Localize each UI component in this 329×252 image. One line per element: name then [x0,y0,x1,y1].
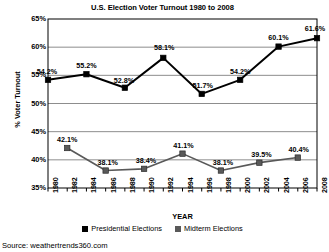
x-tick-label: 2008 [320,177,329,193]
data-point-marker [295,155,300,160]
x-axis-title: YEAR [48,212,317,221]
legend-swatch-presidential [82,226,88,232]
legend-swatch-midterm [175,226,181,232]
data-point-label: 38.1% [213,158,233,167]
data-point-label: 38.4% [136,156,156,165]
data-point-marker [84,72,89,77]
legend-item-presidential: Presidential Elections [82,224,162,233]
x-tick-label: 2002 [262,177,271,193]
data-point-label: 38.1% [97,158,117,167]
x-tick-label: 2006 [301,177,310,193]
data-point-label: 41.1% [173,141,193,150]
data-point-marker [276,44,281,49]
data-point-marker [103,168,108,173]
x-tick-label: 1992 [166,177,175,193]
data-point-label: 39.5% [251,150,271,159]
x-tick-label: 1986 [109,177,118,193]
data-point-marker [199,91,204,96]
data-point-marker [122,85,127,90]
data-point-marker [141,166,146,171]
data-point-label: 58.1% [154,43,174,52]
data-point-label: 51.7% [193,81,213,90]
x-tick-label: 1984 [89,177,98,193]
legend-label-presidential: Presidential Elections [91,224,162,233]
legend-label-midterm: Midterm Elections [184,224,243,233]
x-tick-label: 1998 [224,177,233,193]
chart-legend: Presidential Elections Midterm Elections [0,224,325,233]
data-point-marker [314,35,319,40]
data-point-marker [257,160,262,165]
x-tick-label: 1982 [70,177,79,193]
data-point-label: 55.2% [76,61,96,70]
data-point-label: 42.1% [57,135,77,144]
x-tick-label: 2000 [243,177,252,193]
x-tick-label: 1996 [205,177,214,193]
x-tick-label: 1988 [128,177,137,193]
data-point-label: 61.6% [305,24,325,33]
data-point-marker [65,145,70,150]
x-tick-label: 1990 [147,177,156,193]
data-point-marker [237,77,242,82]
data-point-label: 52.8% [114,76,134,85]
data-point-label: 60.1% [268,33,288,42]
data-point-marker [180,151,185,156]
data-point-marker [218,168,223,173]
legend-item-midterm: Midterm Elections [175,224,243,233]
data-point-label: 54.2% [230,67,250,76]
data-point-label: 40.4% [289,145,309,154]
data-point-label: 54.2% [37,67,57,76]
data-point-marker [45,77,50,82]
source-text: Source: weathertrends360.com [2,241,108,250]
x-tick-label: 1980 [51,177,60,193]
data-point-marker [161,55,166,60]
x-tick-label: 1994 [186,177,195,193]
x-tick-label: 2004 [282,177,291,193]
